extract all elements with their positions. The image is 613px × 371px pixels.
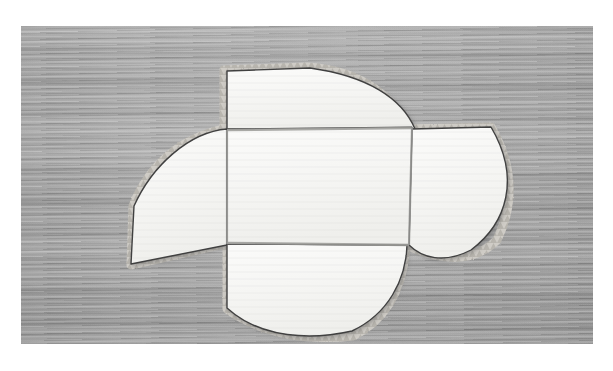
- pattern-piece-drawing: [21, 26, 593, 344]
- center-square: [227, 127, 412, 245]
- figure-caption: [26, 352, 586, 366]
- page-root: [0, 0, 613, 371]
- photograph: [21, 26, 593, 344]
- pattern-piece: [21, 26, 593, 344]
- petal-top: [227, 68, 415, 129]
